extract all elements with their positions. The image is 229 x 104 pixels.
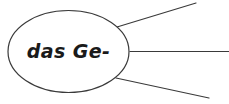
mind-map-diagram [0,0,229,104]
branch-line-lower[interactable] [116,78,209,98]
branch-line-upper[interactable] [117,3,196,27]
node-ellipse[interactable] [8,11,129,93]
diagram-canvas: das Ge- [0,0,229,104]
